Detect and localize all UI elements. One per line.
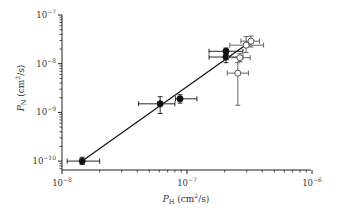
filled-data-point [176, 95, 197, 103]
y-tick-label: 10−10 [33, 154, 57, 166]
open-circle-marker [248, 38, 254, 44]
y-tick-label: 10−9 [36, 105, 56, 117]
open-data-point [227, 63, 248, 106]
filled-data-point [67, 157, 99, 164]
y-axis-title: PN (cm2/s) [14, 65, 28, 113]
filled-circle-marker [177, 96, 183, 102]
filled-circle-marker [157, 101, 163, 107]
filled-circle-marker [79, 158, 85, 164]
x-tick-label: 10−6 [302, 176, 322, 188]
data-points [67, 36, 263, 165]
x-axis-title: PH (cm2/s) [162, 192, 210, 206]
scatter-chart: 10−810−710−610−1010−910−810−7 PH (cm2/s)… [0, 0, 345, 214]
y-tick-label: 10−7 [36, 8, 56, 20]
y-tick-label: 10−8 [36, 57, 56, 69]
open-data-point [230, 37, 264, 53]
x-tick-label: 10−7 [177, 176, 197, 188]
x-tick-label: 10−8 [52, 176, 72, 188]
open-circle-marker [235, 70, 241, 76]
open-circle-marker [237, 55, 243, 61]
